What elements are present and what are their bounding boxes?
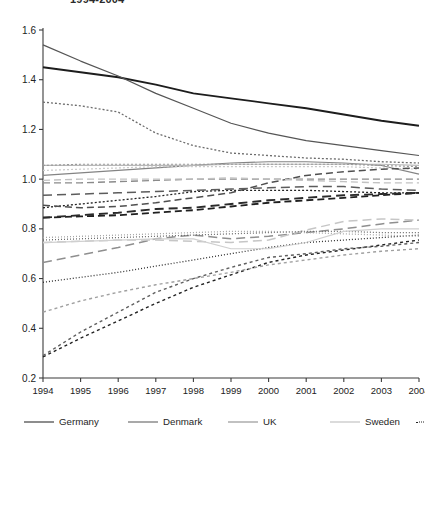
legend-item-denmark: Denmark — [128, 415, 228, 429]
x-tick-label: 1999 — [220, 385, 241, 396]
legend-label: Denmark — [163, 415, 202, 429]
x-tick-label: 1995 — [70, 385, 91, 396]
y-tick-label: 1.0 — [22, 174, 36, 185]
series-line-denmark — [43, 45, 419, 156]
y-tick-label: 0.4 — [22, 323, 36, 334]
y-tick-label: 0.6 — [22, 273, 36, 284]
series-line-germany — [43, 67, 419, 125]
legend-label: Germany — [59, 415, 99, 429]
y-tick-label: 1.6 — [22, 25, 36, 36]
legend-swatch-finland — [416, 417, 425, 427]
x-tick-label: 1997 — [145, 385, 166, 396]
y-tick-label: 0.2 — [22, 373, 36, 384]
series-line-latvia — [43, 240, 419, 357]
series-line-greece — [43, 243, 419, 356]
x-tick-label: 2000 — [258, 385, 279, 396]
series-line-ireland — [43, 102, 419, 163]
legend-swatch-sweden — [330, 417, 360, 427]
legend-item-uk: UK — [228, 415, 330, 429]
legend-label: Sweden — [365, 415, 400, 429]
x-tick-label: 1998 — [183, 385, 204, 396]
caption-strip — [0, 500, 425, 515]
x-tick-label: 2001 — [296, 385, 317, 396]
legend-item-finland: Finland — [416, 415, 425, 429]
legend-item-germany: Germany — [24, 415, 128, 429]
y-tick-label: 1.4 — [22, 74, 36, 85]
x-tick-label: 1994 — [32, 385, 53, 396]
chart-page: 1994-2004 0.20.40.60.81.01.21.41.6199419… — [0, 0, 425, 515]
chart-legend: GermanyDenmarkUKSwedenFinlandIrelandNeth… — [24, 415, 416, 503]
line-chart-svg: 0.20.40.60.81.01.21.41.61994199519961997… — [0, 14, 425, 399]
x-tick-label: 2002 — [333, 385, 354, 396]
y-tick-label: 0.8 — [22, 223, 36, 234]
x-tick-label: 1996 — [108, 385, 129, 396]
y-tick-label: 1.2 — [22, 124, 36, 135]
plot-area: 0.20.40.60.81.01.21.41.61994199519961997… — [0, 14, 425, 399]
legend-item-sweden: Sweden — [330, 415, 416, 429]
legend-swatch-denmark — [128, 417, 158, 427]
legend-label: UK — [263, 415, 276, 429]
x-tick-label: 2003 — [371, 385, 392, 396]
legend-swatch-germany — [24, 417, 54, 427]
x-tick-label: 2004 — [408, 385, 425, 396]
legend-swatch-uk — [228, 417, 258, 427]
series-line-poland — [43, 249, 419, 312]
chart-title: 1994-2004 — [70, 0, 320, 4]
series-line-czech — [43, 231, 419, 237]
